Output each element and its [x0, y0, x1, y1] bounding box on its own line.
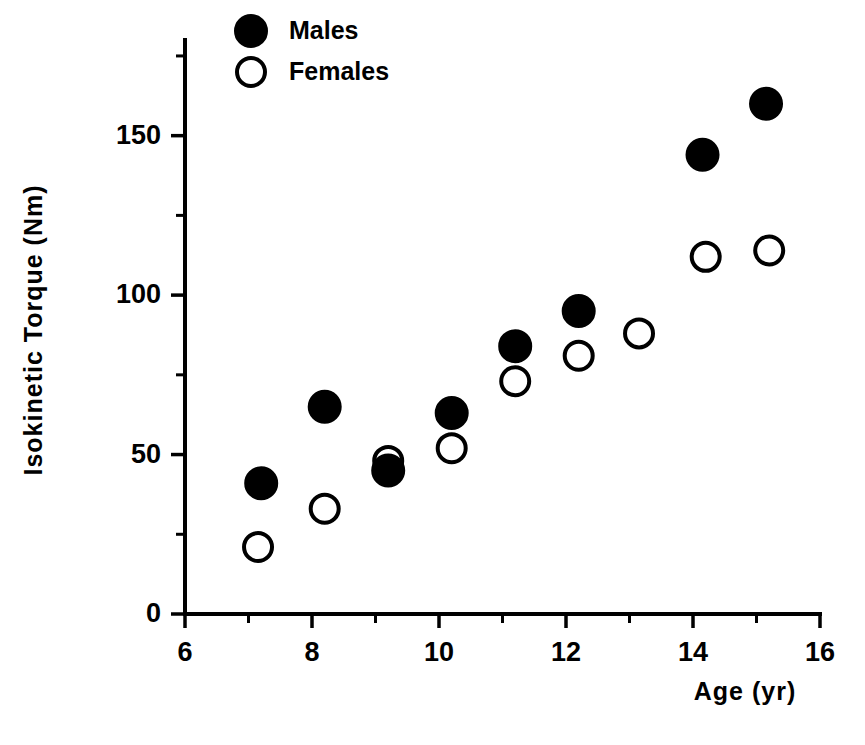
legend-label-females: Females	[289, 57, 389, 85]
data-point-female	[625, 319, 653, 347]
data-point-male	[372, 455, 404, 487]
y-tick-label: 100	[116, 279, 161, 309]
legend-marker-females	[237, 58, 265, 86]
legend-marker-males	[235, 15, 267, 47]
data-point-female	[438, 434, 466, 462]
data-point-female	[501, 367, 529, 395]
x-axis-ticks	[185, 614, 820, 628]
data-point-female	[311, 495, 339, 523]
legend: Males Females	[235, 15, 389, 86]
data-point-female	[692, 243, 720, 271]
y-tick-label: 0	[146, 598, 161, 628]
data-point-male	[687, 139, 719, 171]
data-point-female	[755, 236, 783, 264]
y-tick-label: 50	[131, 439, 161, 469]
data-series-males	[245, 88, 782, 499]
x-tick-label: 6	[177, 637, 192, 667]
data-point-female	[244, 533, 272, 561]
x-tick-label: 10	[424, 637, 454, 667]
data-point-female	[565, 342, 593, 370]
data-point-male	[499, 330, 531, 362]
data-point-male	[245, 467, 277, 499]
y-tick-label: 150	[116, 120, 161, 150]
y-axis-title: Isokinetic Torque (Nm)	[19, 184, 47, 475]
x-tick-label: 14	[678, 637, 708, 667]
x-tick-label: 8	[304, 637, 319, 667]
data-point-male	[563, 295, 595, 327]
data-point-male	[309, 391, 341, 423]
x-axis-title: Age (yr)	[694, 677, 796, 705]
data-point-male	[750, 88, 782, 120]
chart-canvas: 050100150 6810121416 Isokinetic Torque (…	[0, 0, 865, 745]
x-tick-label: 12	[551, 637, 581, 667]
data-point-male	[436, 397, 468, 429]
scatter-chart-figure: 050100150 6810121416 Isokinetic Torque (…	[0, 0, 865, 745]
x-axis-tick-labels: 6810121416	[177, 637, 835, 667]
y-axis-ticks	[171, 56, 185, 614]
axes	[185, 40, 820, 614]
legend-label-males: Males	[289, 16, 358, 44]
y-axis-tick-labels: 050100150	[116, 120, 161, 628]
x-tick-label: 16	[805, 637, 835, 667]
